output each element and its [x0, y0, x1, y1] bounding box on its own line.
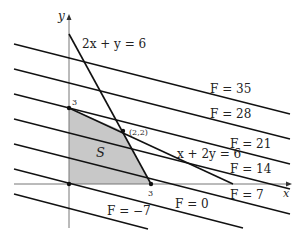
- region-label: S: [96, 145, 105, 160]
- vertex-label-2-2: (2,2): [129, 128, 148, 137]
- level-label-neg7: F = −7: [107, 204, 151, 218]
- level-label-21: F = 21: [230, 137, 271, 151]
- level-label-7: F = 7: [230, 188, 264, 202]
- vertex-3-0: [149, 182, 153, 186]
- linear-programming-figure: y x 3 3 (2,2) S 2x + y = 6 x + 2y = 6 F …: [0, 0, 307, 239]
- feasible-region: [69, 108, 151, 184]
- x-axis-arrow-icon: [286, 182, 292, 187]
- y-axis-label: y: [57, 9, 65, 23]
- vertex-2-2: [121, 129, 125, 133]
- x-tick-label: 3: [148, 189, 153, 198]
- y-axis-arrow-icon: [67, 14, 72, 20]
- level-label-28: F = 28: [210, 107, 251, 121]
- level-label-35: F = 35: [210, 82, 251, 96]
- level-label-14: F = 14: [230, 162, 272, 176]
- vertex-0-3: [67, 106, 71, 110]
- constraint-label-2x-plus-y: 2x + y = 6: [82, 37, 146, 51]
- y-tick-label: 3: [72, 98, 77, 107]
- x-axis-label: x: [283, 187, 290, 200]
- vertex-origin: [67, 182, 71, 186]
- level-label-0: F = 0: [175, 197, 209, 211]
